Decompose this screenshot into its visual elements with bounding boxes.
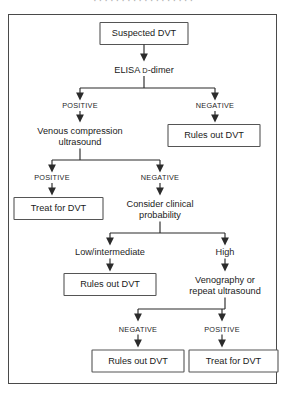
branch-label-ultrasound-positive: POSITIVE <box>34 173 70 182</box>
node-treat-for-dvt-1: Treat for DVT <box>14 198 103 220</box>
arrowhead-icon <box>76 93 84 101</box>
suspected-dvt-label: Suspected DVT <box>112 28 177 38</box>
arrowhead-icon <box>140 54 148 62</box>
branch-label-elisa-positive: POSITIVE <box>62 101 98 110</box>
branch-label-venography-positive: POSITIVE <box>204 325 240 334</box>
arrowhead-icon <box>221 238 229 246</box>
connector-vpos-to-treat <box>218 335 226 348</box>
venous-compression-line2-label: ultrasound <box>59 137 102 147</box>
branch-label-venography-negative: NEGATIVE <box>119 325 157 334</box>
elisa-suffix-label: -dimer <box>148 65 174 75</box>
arrowhead-icon <box>48 188 56 196</box>
venous-compression-line1-label: Venous compression <box>37 126 122 136</box>
node-suspected-dvt: Suspected DVT <box>100 23 188 45</box>
treat-for-dvt-2-label: Treat for DVT <box>206 356 262 366</box>
arrowhead-icon <box>48 165 56 173</box>
arrowhead-icon <box>218 314 226 322</box>
connector-low-to-rulesout <box>106 259 114 272</box>
node-rules-out-dvt-2: Rules out DVT <box>64 274 156 296</box>
rules-out-dvt-3-label: Rules out DVT <box>108 356 168 366</box>
arrowhead-icon <box>76 115 84 123</box>
node-rules-out-dvt-3: Rules out DVT <box>92 350 184 372</box>
node-consider-clinical-probability: Consider clinical probability <box>127 199 194 221</box>
connector-venography-branch <box>134 298 226 322</box>
branch-label-probability-high: High <box>216 247 235 257</box>
connector-ultrasound-branch <box>48 149 164 173</box>
arrowhead-icon <box>218 340 226 348</box>
svg-text:ELISA D-dimer: ELISA D-dimer <box>114 65 173 75</box>
node-venous-compression-ultrasound: Venous compression ultrasound <box>37 126 122 148</box>
branch-label-elisa-negative: NEGATIVE <box>196 101 234 110</box>
node-venography-or-repeat-ultrasound: Venography or repeat ultrasound <box>189 275 261 297</box>
treat-for-dvt-1-label: Treat for DVT <box>31 203 87 213</box>
arrowhead-icon <box>156 188 164 196</box>
arrowhead-icon <box>211 115 219 123</box>
connector-us-negative-to-probability <box>156 183 164 196</box>
arrowhead-icon <box>221 264 229 272</box>
connector-elisa-branch <box>76 76 219 101</box>
elisa-prefix-label: ELISA <box>114 65 142 75</box>
arrowhead-icon <box>156 165 164 173</box>
arrowhead-icon <box>106 264 114 272</box>
connector-probability-branch <box>106 222 229 246</box>
figure-root: · · · · · · · · · · · · · · · · · · Susp… <box>0 0 287 393</box>
node-treat-for-dvt-2: Treat for DVT <box>189 350 278 372</box>
connector-us-positive-to-treat <box>48 183 56 196</box>
connector-negative-to-rulesout <box>211 111 219 123</box>
rules-out-dvt-1-label: Rules out DVT <box>184 130 244 140</box>
consider-clinical-line2-label: probability <box>139 210 181 220</box>
connector-suspected-to-elisa <box>140 45 148 62</box>
consider-clinical-line1-label: Consider clinical <box>127 199 194 209</box>
branch-label-ultrasound-negative: NEGATIVE <box>141 173 179 182</box>
dvt-flowchart: Suspected DVT ELISA D-dimer POSITIVE <box>0 0 287 393</box>
arrowhead-icon <box>211 93 219 101</box>
connector-vneg-to-rulesout <box>134 335 142 348</box>
connector-high-to-venography <box>221 259 229 272</box>
connector-positive-to-ultrasound <box>76 111 84 123</box>
branch-label-probability-low: Low/intermediate <box>75 247 145 257</box>
rules-out-dvt-2-label: Rules out DVT <box>80 279 140 289</box>
arrowhead-icon <box>134 340 142 348</box>
node-elisa-d-dimer: ELISA D-dimer <box>114 65 173 75</box>
arrowhead-icon <box>106 238 114 246</box>
venography-line2-label: repeat ultrasound <box>189 286 261 296</box>
node-rules-out-dvt-1: Rules out DVT <box>168 125 260 147</box>
arrowhead-icon <box>134 314 142 322</box>
venography-line1-label: Venography or <box>195 275 255 285</box>
